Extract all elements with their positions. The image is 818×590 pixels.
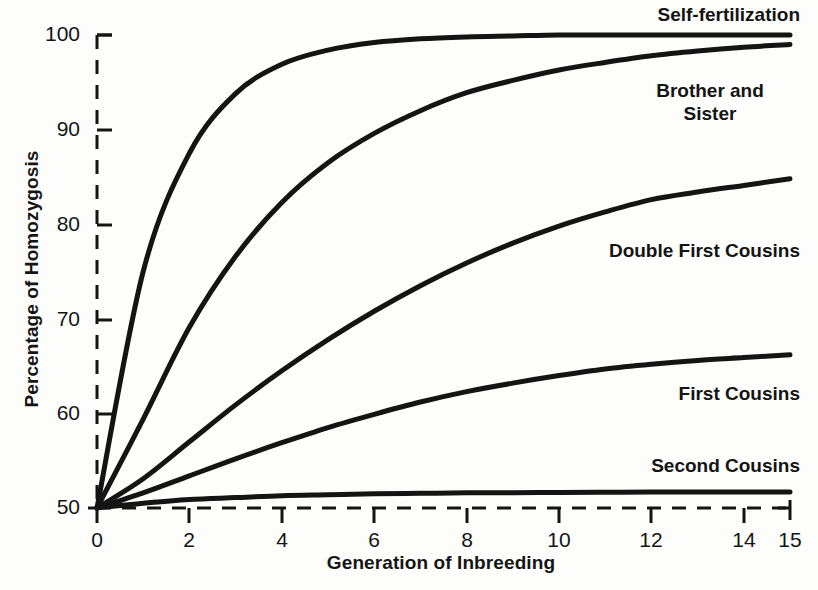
x-tick-label-6: 6 <box>354 528 394 552</box>
x-tick-label-12: 12 <box>631 528 671 552</box>
chart-figure: 100 90 80 70 60 50 0 2 4 6 8 10 12 14 15… <box>0 0 818 590</box>
x-tick-label-15: 15 <box>770 528 810 552</box>
y-tick-label-100: 100 <box>22 22 80 46</box>
x-axis-title: Generation of Inbreeding <box>0 552 818 574</box>
x-tick-label-14: 14 <box>724 528 764 552</box>
y-tick-label-50: 50 <box>22 495 80 519</box>
x-tick-label-2: 2 <box>169 528 209 552</box>
series-label-first-cousins: First Cousins <box>500 383 800 405</box>
series-label-double-first-cousins: Double First Cousins <box>450 240 800 262</box>
series-label-self-fertilization: Self-fertilization <box>470 4 800 26</box>
x-tick-label-0: 0 <box>77 528 117 552</box>
series-label-second-cousins: Second Cousins <box>480 455 800 477</box>
x-tick-label-4: 4 <box>262 528 302 552</box>
series-label-brother-and-sister-line1: Brother and <box>620 80 800 102</box>
x-axis-ticks <box>97 508 744 523</box>
curve-second-cousins <box>97 492 790 508</box>
y-axis-title: Percentage of Homozygosis <box>21 129 43 429</box>
x-tick-label-10: 10 <box>539 528 579 552</box>
x-tick-label-8: 8 <box>447 528 487 552</box>
series-label-brother-and-sister-line2: Sister <box>620 103 800 125</box>
